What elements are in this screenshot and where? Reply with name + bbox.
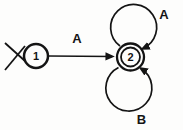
state-2: 2 [117, 44, 144, 71]
self-loop-bottom-arc [106, 68, 152, 112]
state-1: 1 [24, 44, 48, 68]
self-loop-bottom: B [106, 68, 152, 128]
transition-1-to-2-label: A [72, 31, 82, 46]
self-loop-top-label: A [159, 7, 169, 22]
start-state-marker [5, 43, 25, 70]
transition-1-to-2-arrow [48, 56, 112, 57]
self-loop-top: A [111, 4, 170, 48]
transition-1-to-2: A [48, 31, 112, 57]
state-2-label: 2 [127, 51, 133, 63]
state-1-label: 1 [33, 50, 39, 62]
self-loop-bottom-label: B [137, 112, 146, 127]
self-loop-top-arc [111, 4, 157, 48]
automaton-diagram: 1 A A B 2 [0, 0, 183, 130]
